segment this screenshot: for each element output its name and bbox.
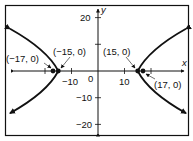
focus-label-left: (−17, 0)	[6, 53, 39, 64]
x-tick-label-10: 10	[119, 76, 130, 87]
focus-label-right: (17, 0)	[154, 79, 181, 90]
vertex-label-right: (15, 0)	[103, 46, 130, 57]
vertex-point-right	[135, 69, 140, 74]
vertex-point-left	[56, 69, 61, 74]
hyperbola-chart: (−17, 0) (−15, 0) (15, 0) (17, 0) −10 10…	[0, 0, 193, 141]
origin-label: 0	[88, 73, 93, 84]
vertex-label-left: (−15, 0)	[53, 46, 86, 57]
focus-point-left	[51, 69, 56, 74]
x-tick-label-neg10: −10	[62, 76, 78, 87]
y-tick-label-neg10: −10	[76, 92, 92, 103]
focus-point-right	[141, 69, 146, 74]
y-tick-label-20: 20	[80, 12, 91, 23]
y-tick-label-neg20: −20	[76, 119, 92, 130]
